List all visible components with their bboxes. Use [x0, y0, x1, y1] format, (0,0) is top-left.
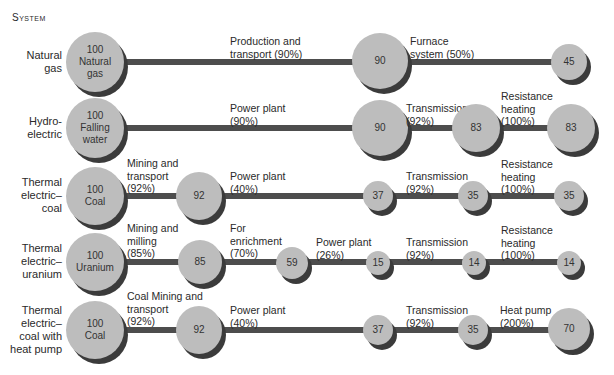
node-coal-35: 35: [458, 181, 488, 211]
node-coal-92: 92: [176, 172, 222, 220]
node-uranium-100: 100Uranium: [66, 233, 124, 291]
node-uranium-14-final: 14: [557, 251, 581, 275]
row-label-hydro-electric: Hydro-electric: [0, 115, 62, 141]
step-resistance-heating: Resistanceheating(100%): [501, 224, 553, 262]
step-mining-milling: Mining andmilling(85%): [127, 222, 178, 260]
node-coal-hp-100: 100Coal: [66, 301, 124, 359]
node-uranium-15: 15: [366, 251, 390, 275]
step-furnace-system: Furnacesystem (50%): [410, 35, 474, 60]
node-natural-gas-45: 45: [551, 44, 587, 80]
step-heat-pump: Heat pump(200%): [500, 304, 551, 329]
node-coal-hp-37: 37: [363, 315, 393, 345]
row-label-coal-heat-pump: Thermalelectric–coal withheat pump: [0, 304, 62, 356]
step-mining-transport: Mining andtransport(92%): [127, 157, 178, 195]
node-coal-hp-35: 35: [458, 315, 488, 345]
node-uranium-59: 59: [276, 247, 308, 279]
node-coal-35-final: 35: [554, 181, 584, 211]
row-label-thermal-uranium: Thermalelectric–uranium: [0, 242, 62, 281]
step-power-plant: Power plant(26%): [316, 236, 371, 261]
node-hydro-83: 83: [452, 104, 500, 152]
node-coal-37: 37: [363, 181, 393, 211]
flow-bar: [110, 59, 580, 65]
step-power-plant: Power plant(40%): [230, 170, 285, 195]
node-hydro-83-final: 83: [547, 104, 595, 152]
node-hydro-90: 90: [352, 100, 408, 156]
step-production-transport: Production andtransport (90%): [230, 35, 302, 60]
node-coal-hp-70: 70: [548, 308, 590, 350]
node-uranium-14: 14: [462, 251, 486, 275]
row-label-natural-gas: Naturalgas: [0, 49, 62, 75]
node-coal-100: 100Coal: [66, 167, 124, 225]
step-power-plant: Power plant(90%): [230, 102, 285, 127]
node-natural-gas-100: 100Naturalgas: [66, 32, 124, 92]
row-label-thermal-coal: Thermalelectric–coal: [0, 176, 62, 215]
step-power-plant: Power plant(40%): [230, 304, 285, 329]
node-uranium-85: 85: [178, 240, 222, 284]
step-resistance-heating: Resistanceheating(100%): [501, 90, 553, 128]
node-falling-water-100: 100Fallingwater: [66, 98, 124, 158]
node-coal-hp-92: 92: [176, 306, 222, 354]
step-transmission: Transmission(92%): [406, 236, 468, 261]
step-enrichment: Forenrichment(70%): [230, 222, 282, 260]
step-resistance-heating: Resistanceheating(100%): [501, 158, 553, 196]
node-natural-gas-90: 90: [352, 33, 408, 89]
system-header: System: [12, 12, 46, 23]
